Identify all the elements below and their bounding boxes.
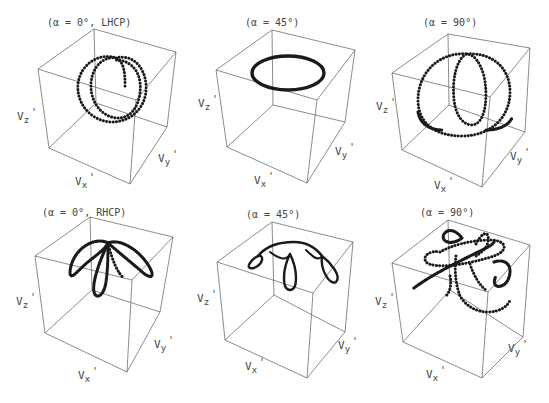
panel-1-z-axis-label: Vz' — [17, 108, 37, 125]
panel-5-x-axis-label: Vx' — [245, 358, 265, 375]
panel-3-x-axis-label: Vx' — [434, 177, 454, 194]
panel-6-z-axis-label: Vz' — [375, 293, 395, 310]
panel-6-curve — [414, 231, 510, 312]
panel-1-x-axis-label: Vx' — [75, 173, 95, 190]
panel-2-y-axis-label: Vy' — [335, 143, 355, 160]
panel-3-curve — [418, 54, 512, 136]
panel-5-y-axis-label: Vy' — [338, 337, 358, 354]
panel-5-title: (α = 45°) — [246, 210, 300, 220]
panel-5-curve — [249, 242, 338, 290]
panel-2-title: (α = 45°) — [245, 18, 299, 28]
panel-2-z-axis-label: Vz' — [198, 95, 218, 112]
panel-6-title: (α = 90°) — [420, 208, 474, 218]
panel-2-box — [216, 30, 355, 183]
panel-6-y-axis-label: Vy' — [508, 340, 528, 357]
panel-1-box — [38, 29, 176, 184]
panel-4-y-axis-label: Vy' — [154, 336, 174, 353]
panel-4-curve — [70, 241, 152, 296]
figure-3d-trajectories: (α = 0°, LHCP) (α = 45°) (α = 90°) (α = … — [0, 0, 549, 403]
panel-2-curve — [252, 56, 324, 90]
panel-4-title: (α = 0°, RHCP) — [42, 208, 126, 218]
panel-3-y-axis-label: Vy' — [510, 148, 530, 165]
panel-3-title: (α = 90°) — [423, 18, 477, 28]
plots-canvas — [0, 0, 549, 403]
panel-3-z-axis-label: Vz' — [376, 98, 396, 115]
panel-5-z-axis-label: Vz' — [197, 290, 217, 307]
panel-5-box — [217, 222, 353, 378]
panel-2-x-axis-label: Vx' — [254, 172, 274, 189]
panel-1-y-axis-label: Vy' — [158, 150, 178, 167]
panel-1-title: (α = 0°, LHCP) — [47, 18, 131, 28]
panel-6-x-axis-label: Vx' — [426, 366, 446, 383]
panel-1-curve — [78, 56, 146, 122]
panel-4-z-axis-label: Vz' — [16, 293, 36, 310]
panel-4-x-axis-label: Vx' — [78, 367, 98, 384]
